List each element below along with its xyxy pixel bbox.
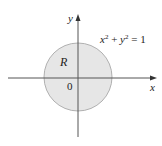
region-label: R [60, 56, 67, 68]
origin-label: 0 [67, 81, 73, 92]
x-axis-label: x [150, 82, 155, 93]
diagram-graphics [0, 0, 162, 146]
y-axis-arrow-icon [76, 14, 81, 21]
y-axis-label: y [68, 13, 73, 24]
unit-disk-diagram: x2 + y2 = 1 R 0 x y [0, 0, 162, 146]
x-axis-arrow-icon [150, 76, 157, 81]
circle-equation-label: x2 + y2 = 1 [100, 34, 146, 45]
equation-plus: + [108, 33, 120, 45]
equation-rhs: = 1 [129, 33, 146, 45]
